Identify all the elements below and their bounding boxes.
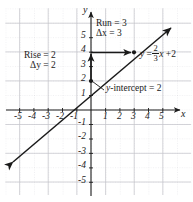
y-axis-label: y (83, 5, 87, 16)
y-intercept-text: -intercept = 2 (110, 83, 161, 93)
x-tick-label: 5 (159, 112, 164, 122)
delta-x-symbol: Δx (96, 28, 107, 38)
delta-y-symbol: Δy (30, 60, 41, 70)
x-tick-label: -2 (56, 112, 64, 122)
slope-numerator: 2 (152, 44, 158, 53)
y-tick-label: -3 (78, 147, 86, 157)
y-tick-label: 4 (81, 45, 86, 55)
run-line-2: Δx = 3 (96, 29, 127, 39)
equation-variable: x (159, 49, 163, 59)
graph-figure: y x -5 -4 -3 -2 -1 1 2 3 4 5 5 4 3 2 1 -… (0, 0, 193, 202)
rise-line-2: Δy = 2 (24, 61, 56, 71)
y-intercept-annotation: y-intercept = 2 (106, 84, 161, 94)
y-tick-label: -2 (78, 132, 86, 142)
equation-lhs: y (140, 49, 144, 59)
slope-denominator: 3 (152, 53, 158, 63)
y-tick-label: 1 (81, 89, 86, 99)
y-tick-label: -4 (78, 161, 86, 171)
x-tick-label: -4 (28, 112, 36, 122)
x-tick-label: 3 (131, 112, 136, 122)
run-annotation: Run = 3 Δx = 3 (96, 19, 127, 39)
x-tick-label: -5 (14, 112, 22, 122)
delta-x-value: = 3 (107, 28, 122, 38)
x-tick-label: -3 (42, 112, 50, 122)
x-tick-label: -1 (70, 112, 78, 122)
rise-annotation: Rise = 2 Δy = 2 (24, 51, 56, 71)
x-axis-label: x (181, 109, 185, 120)
x-tick-label: 2 (117, 112, 122, 122)
y-tick-label: 5 (81, 31, 86, 41)
x-tick-label: 1 (103, 112, 108, 122)
y-tick-label: 2 (81, 74, 86, 84)
equation-label: y =23x +2 (140, 44, 176, 62)
x-tick-label: 4 (145, 112, 150, 122)
y-tick-label: -1 (78, 118, 86, 128)
delta-y-value: = 2 (41, 60, 56, 70)
slope-fraction: 23 (152, 44, 158, 62)
point-second (132, 50, 136, 54)
y-tick-label: 3 (81, 60, 86, 70)
equation-intercept: 2 (171, 49, 176, 59)
equation-equals: = (147, 49, 152, 59)
y-tick-label: -5 (78, 176, 86, 186)
